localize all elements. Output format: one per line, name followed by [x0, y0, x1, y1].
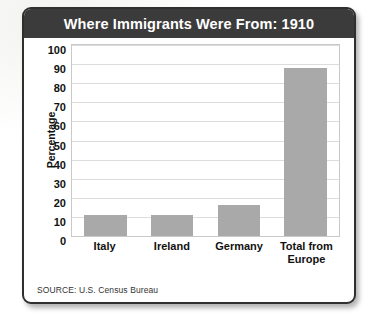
- y-tick-label: 20: [54, 197, 66, 208]
- chart-card: Where Immigrants Were From: 1910 Percent…: [22, 7, 356, 304]
- bar-slot[interactable]: [206, 45, 273, 236]
- chart-title-bar: Where Immigrants Were From: 1910: [24, 9, 354, 38]
- y-tick-label: 60: [54, 121, 66, 132]
- x-tick-label: Germany: [206, 240, 273, 265]
- plot-area: [71, 44, 340, 237]
- bar-series: [72, 45, 339, 236]
- y-tick-label: 40: [54, 159, 66, 170]
- gridline: [72, 236, 339, 237]
- x-tick-label: Italy: [71, 240, 138, 265]
- y-tick-label: 30: [54, 178, 66, 189]
- bar-slot[interactable]: [139, 45, 206, 236]
- bar[interactable]: [151, 215, 194, 236]
- y-tick-label: 70: [54, 102, 66, 113]
- x-axis-tick-labels: ItalyIrelandGermanyTotal from Europe: [71, 240, 340, 265]
- chart-page: Where Immigrants Were From: 1910 Percent…: [0, 0, 372, 320]
- y-tick-label: 10: [54, 216, 66, 227]
- bar-slot[interactable]: [272, 45, 339, 236]
- page-title: Where Immigrants Were From: 1910: [64, 16, 314, 32]
- chart-body: Percentage 1009080706050403020100 ItalyI…: [24, 38, 354, 302]
- bar[interactable]: [84, 215, 127, 236]
- y-axis-tick-labels: 1009080706050403020100: [38, 44, 66, 237]
- y-tick-label: 100: [48, 45, 66, 56]
- bar[interactable]: [218, 205, 261, 236]
- source-note: SOURCE: U.S. Census Bureau: [37, 285, 158, 295]
- y-tick-label: 80: [54, 83, 66, 94]
- bar[interactable]: [284, 68, 327, 236]
- bar-slot[interactable]: [72, 45, 139, 236]
- x-tick-label: Total from Europe: [273, 240, 340, 265]
- y-tick-label: 90: [54, 64, 66, 75]
- y-tick-label: 0: [60, 236, 66, 247]
- y-tick-label: 50: [54, 140, 66, 151]
- x-tick-label: Ireland: [138, 240, 205, 265]
